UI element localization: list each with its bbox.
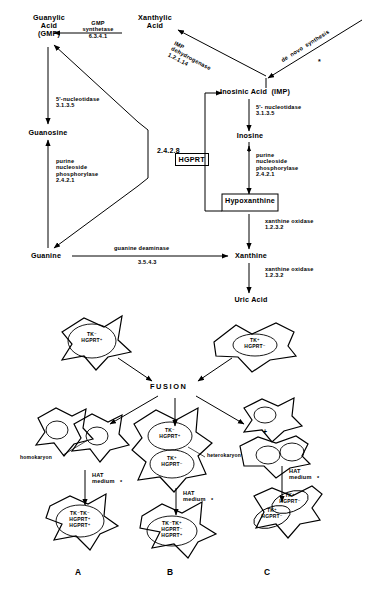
hat-medium-middle: HAT medium bbox=[183, 490, 206, 503]
hgprt-enzyme-box: HGPRT bbox=[156, 130, 209, 184]
panel-caption-c: C bbox=[264, 568, 270, 577]
enzyme-guanine-deaminase: guanine deaminase bbox=[114, 245, 169, 251]
enzyme-xanthine-oxidase-2: xanthine oxidase 1.2.3.2 bbox=[265, 266, 314, 279]
heterokaryon-label: heterokaryon bbox=[207, 453, 241, 459]
node-uric-acid: Uric Acid bbox=[226, 296, 276, 304]
node-inosine: Inosine bbox=[228, 132, 272, 140]
node-guanine: Guanine bbox=[18, 252, 74, 260]
heterokaryon-nucleus-top: TK⁻ HGPRT⁺ bbox=[148, 428, 192, 440]
product-b-genotype: TK⁻TK⁺ HGPRT⁻ HGPRT⁺ bbox=[149, 521, 195, 539]
product-c-nucleus-2: TK⁺ HGPRT⁻ bbox=[252, 508, 292, 520]
node-xanthine: Xanthine bbox=[228, 252, 274, 260]
node-hypoxanthine: Hypoxanthine bbox=[224, 197, 276, 205]
enzyme-5-nucleotidase-right: 5'- nucleotidase 3.1.3.5 bbox=[256, 104, 301, 117]
node-inosinic-acid: Inosinic Acid (IMP) bbox=[220, 88, 350, 96]
enzyme-xanthine-oxidase-1: xanthine oxidase 1.2.3.2 bbox=[265, 218, 314, 231]
product-c-nucleus-1: TK⁺ HGPRT⁻ bbox=[270, 493, 310, 505]
enzyme-purine-nucleoside-phosphorylase-left: purine nucleoside phosphorylase 2.4.2.1 bbox=[56, 158, 98, 183]
hat-medium-right: HAT medium bbox=[289, 468, 312, 481]
parent-cell-left-genotype: TK⁻ HGPRT⁺ bbox=[70, 332, 114, 344]
panel-caption-a: A bbox=[75, 568, 81, 577]
fusion-heading: FUSION bbox=[150, 383, 188, 391]
node-xanthylic-acid: Xanthylic Acid bbox=[124, 14, 186, 30]
panel-caption-b: B bbox=[167, 568, 173, 577]
hat-asterisk-left: * bbox=[120, 479, 122, 485]
hgprt-label: HGPRT bbox=[175, 153, 209, 166]
hat-medium-left: HAT medium bbox=[92, 472, 115, 485]
purine-salvage-and-cell-fusion-figure: Guanylic Acid (GMP) Xanthylic Acid Inosi… bbox=[0, 0, 368, 592]
heterokaryon-nucleus-bottom: TK⁺ HGPRT⁻ bbox=[150, 456, 194, 468]
enzyme-guanine-deaminase-ec: 3.5.4.3 bbox=[138, 259, 157, 265]
de-novo-asterisk: * bbox=[318, 58, 321, 66]
node-guanylic-acid: Guanylic Acid (GMP) bbox=[18, 14, 80, 38]
enzyme-5-nucleotidase-left: 5'-nucleotidase 3.1.3.5 bbox=[56, 96, 100, 109]
parent-cell-right-genotype: TK⁺ HGPRT⁻ bbox=[233, 338, 277, 350]
hat-asterisk-middle: * bbox=[211, 497, 213, 503]
node-guanosine: Guanosine bbox=[16, 129, 80, 137]
hgprt-ec-number: 2.4.2.8 bbox=[157, 147, 180, 155]
enzyme-gmp-synthetase: GMP synthetase 6.3.4.1 bbox=[72, 20, 124, 39]
enzyme-purine-nucleoside-phosphorylase-right: purine nucleoside phosphorylase 2.4.2.1 bbox=[256, 152, 298, 177]
plus-sign: + bbox=[263, 428, 267, 436]
product-a-genotype: TK⁻TK⁻ HGPRT⁺ HGPRT⁺ bbox=[57, 511, 103, 529]
hat-asterisk-right: * bbox=[317, 475, 319, 481]
homokaryon-label: homokaryon bbox=[20, 455, 52, 461]
